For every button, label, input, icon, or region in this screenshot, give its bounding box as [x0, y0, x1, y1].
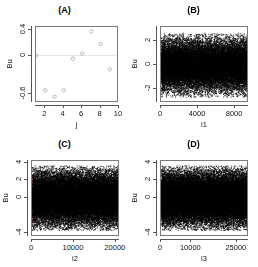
- b-yticklabel: 0: [143, 62, 152, 66]
- a-xtick: [100, 105, 101, 108]
- c-ytick: [24, 197, 27, 198]
- d-xtick: [236, 239, 237, 242]
- b-xticklabel: 8000: [226, 109, 243, 118]
- panel-d-plot-area: [160, 160, 248, 236]
- panel-a-ylabel: Bu: [5, 59, 14, 68]
- d-xticklabel: 10000: [180, 243, 201, 252]
- d-yticklabel: 4: [143, 160, 152, 164]
- d-ytick: [153, 232, 156, 233]
- d-y-axis-line: [156, 160, 157, 236]
- c-xtick: [115, 239, 116, 242]
- panel-a-plot-area: [35, 26, 118, 102]
- a-y-axis-line: [31, 26, 32, 102]
- a-yticklabel: 0.4: [18, 24, 27, 34]
- panel-a-canvas: [36, 27, 118, 102]
- panel-a-xlabel: j: [76, 120, 78, 129]
- d-yticklabel: -4: [143, 228, 152, 235]
- b-yticklabel: -2: [143, 84, 152, 91]
- b-xtick: [197, 105, 198, 108]
- c-ytick: [24, 179, 27, 180]
- c-x-axis-line: [31, 239, 119, 240]
- panel-b-title: (B): [129, 5, 258, 15]
- c-xticklabel: 10000: [62, 243, 83, 252]
- d-yticklabel: 2: [143, 177, 152, 181]
- b-y-axis-line: [156, 26, 157, 102]
- c-yticklabel: -4: [14, 228, 23, 235]
- d-xticklabel: 25000: [225, 243, 246, 252]
- panel-d-ylabel: Bu: [130, 193, 139, 202]
- panel-b-plot-area: [160, 26, 248, 102]
- panel-d-canvas: [161, 161, 248, 236]
- c-xticklabel: 20000: [104, 243, 125, 252]
- b-ytick: [153, 40, 156, 41]
- panel-b-xlabel: i1: [201, 120, 207, 129]
- c-xticklabel: 0: [29, 243, 33, 252]
- a-x-axis-line: [35, 105, 118, 106]
- a-yticklabel: -0.6: [18, 86, 27, 99]
- panel-c: (C) 01000020000420-4 i2 Bu: [0, 134, 129, 267]
- a-xticklabel: 8: [97, 109, 101, 118]
- a-xticklabel: 4: [61, 109, 65, 118]
- panel-c-xlabel: i2: [72, 254, 78, 263]
- panel-d-title: (D): [129, 139, 258, 149]
- panel-c-plot-area: [31, 160, 119, 236]
- panel-c-canvas: [32, 161, 119, 236]
- c-xtick: [73, 239, 74, 242]
- c-ytick: [24, 232, 27, 233]
- a-xtick: [81, 105, 82, 108]
- d-xticklabel: 0: [158, 243, 162, 252]
- panel-d-xlabel: i3: [201, 254, 207, 263]
- panel-b-canvas: [161, 27, 248, 102]
- b-xtick: [160, 105, 161, 108]
- panel-b: (B) 04000800020-2 i1 Bu: [129, 0, 258, 133]
- b-ytick: [153, 88, 156, 89]
- a-xticklabel: 2: [42, 109, 46, 118]
- c-yticklabel: 4: [14, 160, 23, 164]
- a-xticklabel: 6: [79, 109, 83, 118]
- b-yticklabel: 2: [143, 38, 152, 42]
- d-xtick: [160, 239, 161, 242]
- d-x-axis-line: [160, 239, 248, 240]
- c-yticklabel: 0: [14, 195, 23, 199]
- d-ytick: [153, 197, 156, 198]
- d-xtick: [190, 239, 191, 242]
- a-xticklabel: 10: [114, 109, 122, 118]
- b-xticklabel: 4000: [189, 109, 206, 118]
- panel-a-title: (A): [0, 5, 129, 15]
- panel-b-ylabel: Bu: [130, 59, 139, 68]
- b-xticklabel: 0: [158, 109, 162, 118]
- c-xtick: [31, 239, 32, 242]
- b-xtick: [234, 105, 235, 108]
- a-ytick: [28, 29, 31, 30]
- panel-c-title: (C): [0, 139, 129, 149]
- panel-a: (A) 2468100.40-0.6 j Bu: [0, 0, 129, 133]
- b-ytick: [153, 64, 156, 65]
- c-yticklabel: 2: [14, 177, 23, 181]
- figure-grid: (A) 2468100.40-0.6 j Bu (B) 04000800020-…: [0, 0, 258, 267]
- panel-c-ylabel: Bu: [1, 193, 10, 202]
- d-yticklabel: 0: [143, 195, 152, 199]
- c-ytick: [24, 162, 27, 163]
- d-ytick: [153, 179, 156, 180]
- a-ytick: [28, 93, 31, 94]
- a-xtick: [118, 105, 119, 108]
- a-ytick: [28, 55, 31, 56]
- a-xtick: [44, 105, 45, 108]
- c-y-axis-line: [27, 160, 28, 236]
- d-ytick: [153, 162, 156, 163]
- a-xtick: [63, 105, 64, 108]
- a-yticklabel: 0: [18, 52, 27, 56]
- panel-d: (D) 01000025000420-4 i3 Bu: [129, 134, 258, 267]
